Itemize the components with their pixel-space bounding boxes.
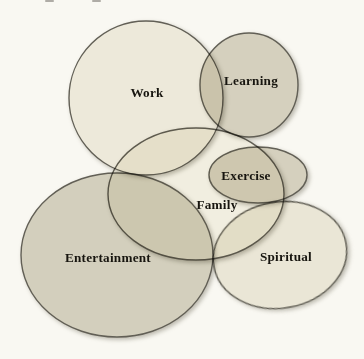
spiritual-label: Spiritual — [260, 249, 312, 264]
exercise-label: Exercise — [221, 168, 270, 183]
cropped-text-artifact-2 — [92, 0, 101, 2]
learning-label: Learning — [224, 73, 278, 88]
family-label: Family — [196, 197, 237, 212]
entertainment-label: Entertainment — [65, 250, 151, 265]
venn-diagram: WorkLearningFamilyExerciseEntertainmentS… — [0, 0, 364, 359]
work-label: Work — [130, 85, 164, 100]
scanned-diagram-page: WorkLearningFamilyExerciseEntertainmentS… — [0, 0, 364, 359]
cropped-text-artifact-1 — [45, 0, 54, 2]
